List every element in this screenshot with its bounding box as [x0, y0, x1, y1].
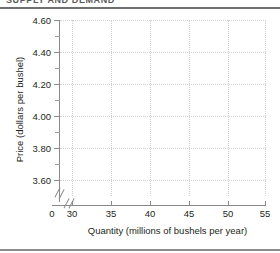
x-axis-tick	[228, 201, 229, 206]
y-axis-minor-tick	[55, 164, 60, 165]
x-axis-title: Quantity (millions of bushels per year)	[60, 225, 275, 236]
x-axis-tick	[150, 201, 151, 206]
y-axis-line	[59, 20, 60, 202]
y-axis-minor-tick	[55, 132, 60, 133]
x-axis-origin-label: 0	[45, 208, 59, 219]
gridline-vertical	[111, 20, 113, 196]
x-axis-tick-label: 40	[135, 208, 165, 219]
x-axis-break-icon	[63, 197, 77, 211]
gridline-vertical	[150, 20, 152, 196]
x-axis-tick-label: 55	[250, 208, 280, 219]
top-heading-clip: SUPPLY AND DEMAND	[0, 0, 280, 7]
x-axis-tick	[265, 201, 266, 206]
price-quantity-chart: 4.60 4.40 4.20 4.00 3.80 3.60 30 35 40 4…	[0, 9, 280, 247]
x-axis-line	[52, 205, 266, 206]
y-axis-minor-tick	[55, 100, 60, 101]
y-axis-title: Price (dollars per bushel)	[14, 25, 25, 195]
gridline-horizontal	[60, 20, 266, 22]
gridline-vertical	[72, 20, 74, 196]
y-axis-tick	[54, 148, 60, 149]
gridline-horizontal	[60, 52, 266, 54]
x-axis-tick-label: 50	[213, 208, 243, 219]
y-axis-tick	[54, 52, 60, 53]
x-axis-tick-label: 35	[96, 208, 126, 219]
gridline-vertical	[228, 20, 230, 196]
y-axis-minor-tick	[55, 68, 60, 69]
gridline-horizontal	[60, 84, 266, 86]
y-axis-tick	[54, 116, 60, 117]
gridline-vertical	[265, 20, 267, 196]
top-heading-text: SUPPLY AND DEMAND	[6, 0, 115, 5]
gridline-horizontal	[60, 116, 266, 118]
y-axis-minor-tick	[55, 36, 60, 37]
gridline-horizontal	[60, 148, 266, 150]
x-axis-tick-label: 45	[174, 208, 204, 219]
gridline-vertical	[189, 20, 191, 196]
plot-area	[60, 20, 266, 196]
bottom-divider-rule	[0, 249, 280, 251]
y-axis-tick	[54, 20, 60, 21]
x-axis-tick	[111, 201, 112, 206]
gridline-horizontal	[60, 180, 266, 182]
x-axis-tick	[189, 201, 190, 206]
y-axis-tick	[54, 84, 60, 85]
y-axis-tick	[54, 180, 60, 181]
